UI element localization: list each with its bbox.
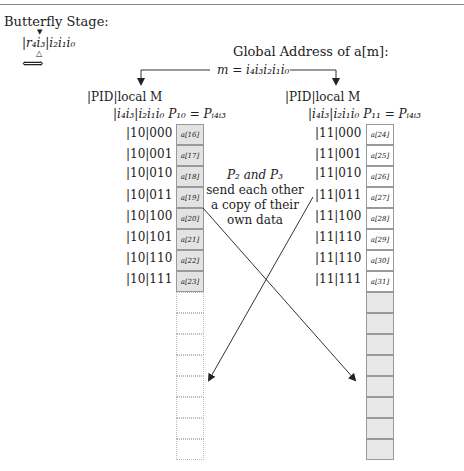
connector-lines	[0, 0, 464, 471]
right-to-left-arrow-icon	[209, 197, 313, 380]
left-to-right-arrow-icon	[203, 208, 355, 380]
right-bracket-arrow-icon	[290, 70, 336, 84]
left-bracket-arrow-icon	[141, 70, 210, 84]
